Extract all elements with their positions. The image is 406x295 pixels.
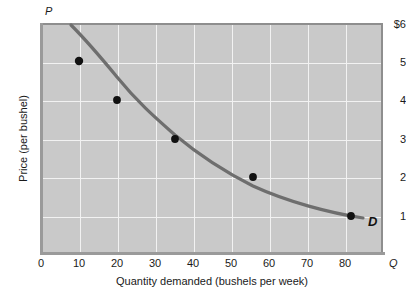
gridline-horizontal-4 <box>42 101 381 102</box>
gridline-vertical-30 <box>156 25 157 252</box>
gridline-vertical-10 <box>80 25 81 252</box>
x-tick-label-50: 50 <box>216 258 246 269</box>
y-tick-label-2: 2 <box>372 172 406 183</box>
gridline-horizontal-1 <box>42 217 381 218</box>
x-tick-label-80: 80 <box>330 258 360 269</box>
y-tick-label-3: 3 <box>372 134 406 145</box>
x-tick-label-0: 0 <box>26 258 56 269</box>
gridline-vertical-50 <box>232 25 233 252</box>
y-tick-label-6: $6 <box>372 19 406 30</box>
gridline-vertical-20 <box>118 25 119 252</box>
gridline-vertical-40 <box>194 25 195 252</box>
gridline-vertical-60 <box>270 25 271 252</box>
x-tick-label-20: 20 <box>102 258 132 269</box>
y-axis-symbol: P <box>45 6 52 17</box>
demand-curve-figure: $6 5 4 3 2 1 0 10 20 30 40 50 60 70 80 P… <box>0 0 406 295</box>
gridline-horizontal-3 <box>42 140 381 141</box>
x-tick-label-40: 40 <box>178 258 208 269</box>
x-tick-label-60: 60 <box>254 258 284 269</box>
plot-area <box>41 23 383 253</box>
y-axis-line <box>40 23 43 255</box>
x-axis-symbol: Q <box>389 258 398 269</box>
gridline-vertical-80 <box>346 25 347 252</box>
y-tick-label-4: 4 <box>372 95 406 106</box>
y-tick-label-5: 5 <box>372 57 406 68</box>
x-axis-title: Quantity demanded (bushels per week) <box>41 276 383 287</box>
x-tick-label-10: 10 <box>64 258 94 269</box>
x-tick-label-30: 30 <box>140 258 170 269</box>
x-axis-line <box>40 252 385 255</box>
y-axis-title: Price (per bushel) <box>18 69 29 209</box>
gridline-horizontal-5 <box>42 63 381 64</box>
demand-curve-label: D <box>368 215 377 228</box>
gridline-horizontal-2 <box>42 178 381 179</box>
x-tick-label-70: 70 <box>292 258 322 269</box>
gridline-vertical-70 <box>308 25 309 252</box>
